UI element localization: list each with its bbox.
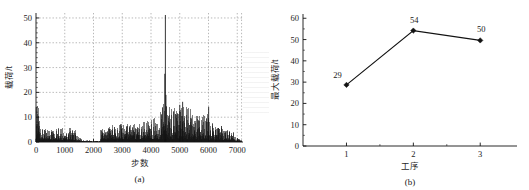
x-tick-label: 3000 xyxy=(114,145,131,155)
y-tick-label: 10 xyxy=(24,112,33,122)
x-tick-label: 2000 xyxy=(85,145,102,155)
data-point-label: 29 xyxy=(333,70,342,80)
y-tick-label: 30 xyxy=(291,77,300,87)
data-point-label: 54 xyxy=(410,15,419,25)
y-tick-label: 60 xyxy=(291,13,300,23)
x-tick-label: 1 xyxy=(344,149,348,159)
x-tick-label: 2 xyxy=(411,149,415,159)
x-axis-title: 工序 xyxy=(401,161,419,171)
y-tick-label: 40 xyxy=(24,38,33,48)
gridlines xyxy=(36,13,243,142)
data-point-label: 50 xyxy=(477,24,486,34)
x-tick-label: 1000 xyxy=(56,145,73,155)
figure-container: 0102030405001000200030004000500060007000… xyxy=(0,0,529,190)
x-axis-ticks: 123 xyxy=(344,143,482,159)
axes xyxy=(36,13,243,142)
y-tick-label: 20 xyxy=(291,98,300,108)
data-point-marker xyxy=(478,38,483,43)
max-load-vs-process-chart: 0102030405060123295450工序最大载荷/t(b) xyxy=(265,0,529,190)
y-axis-title: 最大载荷/t xyxy=(270,59,280,100)
panel-caption: (b) xyxy=(405,177,416,187)
y-tick-label: 30 xyxy=(24,63,33,73)
x-tick-label: 6000 xyxy=(200,145,217,155)
load-vs-step-chart: 0102030405001000200030004000500060007000… xyxy=(0,0,265,190)
chart-panel-a: 0102030405001000200030004000500060007000… xyxy=(0,0,265,190)
panel-caption: (a) xyxy=(135,174,145,184)
y-axis-ticks: 01020304050 xyxy=(24,13,40,147)
y-tick-label: 50 xyxy=(291,35,300,45)
x-tick-label: 7000 xyxy=(229,145,246,155)
y-tick-label: 40 xyxy=(291,56,300,66)
y-tick-label: 20 xyxy=(24,87,33,97)
x-tick-label: 0 xyxy=(34,145,38,155)
x-tick-label: 3 xyxy=(478,149,482,159)
y-tick-label: 0 xyxy=(295,141,299,151)
load-signal-series xyxy=(36,15,241,142)
x-tick-label: 4000 xyxy=(143,145,160,155)
x-axis-title: 步数 xyxy=(131,158,149,168)
x-tick-label: 5000 xyxy=(171,145,188,155)
max-load-series: 295450 xyxy=(333,15,485,88)
y-axis-title: 载荷/t xyxy=(4,66,14,89)
y-tick-label: 10 xyxy=(291,120,300,130)
y-tick-label: 0 xyxy=(28,137,32,147)
chart-panel-b: 0102030405060123295450工序最大载荷/t(b) xyxy=(265,0,529,190)
y-axis-ticks: 0102030405060 xyxy=(291,13,307,151)
y-tick-label: 50 xyxy=(24,13,33,23)
